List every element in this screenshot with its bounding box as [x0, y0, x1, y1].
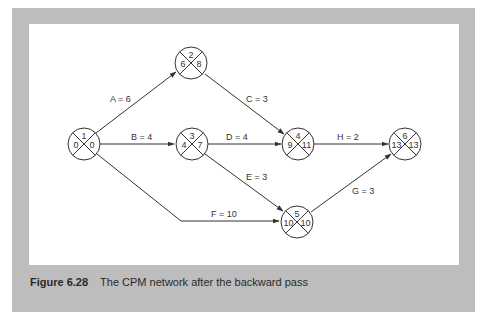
node-event-number: 6	[402, 131, 407, 141]
activity-arrow-g	[311, 154, 391, 212]
activity-label-a: A = 6	[110, 94, 131, 104]
node-latest-time: 13	[408, 140, 418, 150]
node-earliest-time: 6	[180, 59, 185, 69]
figure-caption: Figure 6.28The CPM network after the bac…	[30, 276, 308, 288]
cpm-network-diagram: A = 6 B = 4 C = 3 D = 4 E = 3 F = 10 G =…	[0, 0, 491, 312]
activity-label-g: G = 3	[352, 186, 374, 196]
node-latest-time: 0	[89, 140, 94, 150]
node-latest-time: 11	[302, 140, 311, 150]
event-node-6: 6 13 13	[389, 128, 421, 160]
event-node-1: 1 0 0	[68, 128, 100, 160]
figure-number: Figure 6.28	[30, 276, 88, 288]
node-earliest-time: 0	[73, 140, 78, 150]
node-earliest-time: 4	[181, 140, 186, 150]
activity-label-e: E = 3	[246, 172, 267, 182]
event-node-3: 3 4 7	[176, 128, 208, 160]
node-earliest-time: 9	[287, 140, 292, 150]
event-node-2: 2 6 8	[175, 47, 207, 79]
activity-label-b: B = 4	[131, 132, 152, 142]
activity-label-c: C = 3	[246, 94, 268, 104]
activity-arrow-c	[205, 74, 284, 134]
node-event-number: 1	[81, 131, 86, 141]
figure-caption-text: The CPM network after the backward pass	[100, 276, 308, 288]
node-event-number: 4	[295, 131, 300, 141]
node-event-number: 2	[188, 50, 193, 60]
node-latest-time: 8	[196, 59, 201, 69]
activity-label-d: D = 4	[226, 132, 248, 142]
node-earliest-time: 13	[391, 140, 401, 150]
node-event-number: 3	[189, 131, 194, 141]
event-node-4: 4 9 11	[282, 128, 314, 160]
node-latest-time: 7	[197, 140, 202, 150]
activity-label-f: F = 10	[211, 209, 237, 219]
node-event-number: 5	[294, 209, 299, 219]
activity-arrow-a	[96, 72, 176, 133]
node-earliest-time: 10	[283, 218, 293, 228]
activity-arrow-f	[97, 154, 279, 221]
event-node-5: 5 10 10	[281, 206, 313, 238]
activity-arrow-e	[205, 154, 283, 211]
node-latest-time: 10	[300, 218, 310, 228]
activity-label-h: H = 2	[337, 132, 359, 142]
